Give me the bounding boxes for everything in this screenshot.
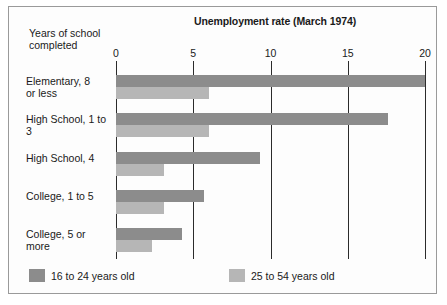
category-label: Elementary, 8 or less xyxy=(26,75,112,99)
category-label: High School, 1 to 3 xyxy=(26,113,112,137)
bar-prime xyxy=(116,164,164,176)
bar-young xyxy=(116,228,182,240)
bar-prime xyxy=(116,87,209,99)
x-tick-mark-20 xyxy=(425,61,426,68)
x-tick-label-10: 10 xyxy=(265,47,277,59)
x-tick-label-15: 15 xyxy=(342,47,354,59)
legend-item: 25 to 54 years old xyxy=(229,269,334,282)
x-tick-mark-15 xyxy=(348,61,349,68)
bar-young xyxy=(116,152,260,164)
bar-group: High School, 1 to 3 xyxy=(116,113,433,137)
x-tick-mark-10 xyxy=(271,61,272,68)
bar-group: High School, 4 xyxy=(116,152,433,176)
chart-title: Unemployment rate (March 1974) xyxy=(119,15,431,27)
legend-swatch xyxy=(229,269,245,282)
bar-group: Elementary, 8 or less xyxy=(116,75,433,99)
y-axis-title: Years of school completed xyxy=(29,27,119,51)
x-tick-label-20: 20 xyxy=(419,47,431,59)
x-tick-label-5: 5 xyxy=(190,47,196,59)
x-tick-label-0: 0 xyxy=(113,47,119,59)
category-label: High School, 4 xyxy=(26,152,112,164)
legend-swatch xyxy=(29,269,45,282)
bar-prime xyxy=(116,240,152,252)
plot-area: 05101520 Elementary, 8 or lessHigh Schoo… xyxy=(116,47,433,259)
chart-frame: Unemployment rate (March 1974) Years of … xyxy=(8,6,437,294)
x-tick-mark-5 xyxy=(193,61,194,68)
legend-item: 16 to 24 years old xyxy=(29,269,134,282)
bars-region: Elementary, 8 or lessHigh School, 1 to 3… xyxy=(116,68,433,259)
legend-label: 25 to 54 years old xyxy=(251,270,334,282)
bar-young xyxy=(116,190,204,202)
bar-group: College, 5 or more xyxy=(116,228,433,252)
bar-prime xyxy=(116,125,209,137)
category-label: College, 1 to 5 xyxy=(26,190,112,202)
bar-prime xyxy=(116,202,164,214)
chart-legend: 16 to 24 years old25 to 54 years old xyxy=(29,269,419,287)
bar-young xyxy=(116,75,425,87)
legend-label: 16 to 24 years old xyxy=(51,270,134,282)
x-tick-mark-0 xyxy=(116,61,117,68)
category-label: College, 5 or more xyxy=(26,228,112,252)
bar-group: College, 1 to 5 xyxy=(116,190,433,214)
bar-young xyxy=(116,113,388,125)
